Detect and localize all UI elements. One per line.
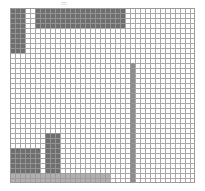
grid-block-mid-vertical-bar: [45, 133, 60, 173]
grid-block-top-horizontal-bar: [35, 8, 125, 28]
grid-block-bottom-left-horizontal-bar: [10, 148, 40, 173]
grid-block-bottom-baseline-bar: [10, 173, 110, 183]
grid-plot-area: [10, 8, 195, 183]
grid-blocks-layer: [10, 8, 195, 183]
grid-block-left-vertical-bar: [10, 8, 25, 53]
top-artifact-glyph: ▭: [59, 0, 68, 6]
grid-block-tall-vertical-bar: [130, 63, 135, 183]
figure-canvas: ▭: [0, 0, 205, 191]
